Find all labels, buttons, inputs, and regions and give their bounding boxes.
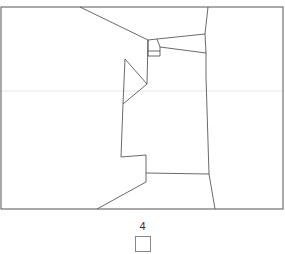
legend-label: 4: [0, 220, 285, 232]
boundary-line: [148, 39, 160, 56]
region-boundaries: [80, 7, 215, 209]
boundary-line: [147, 40, 148, 84]
boundary-line: [148, 34, 205, 40]
boundary-line: [146, 173, 209, 174]
boundary-line: [123, 59, 147, 104]
map-canvas: [0, 0, 285, 215]
boundary-line: [80, 7, 148, 40]
legend-swatch: [135, 236, 151, 252]
boundary-line: [205, 7, 215, 209]
boundary-line: [160, 47, 206, 53]
legend: 4: [0, 220, 285, 252]
boundary-line: [97, 104, 146, 209]
